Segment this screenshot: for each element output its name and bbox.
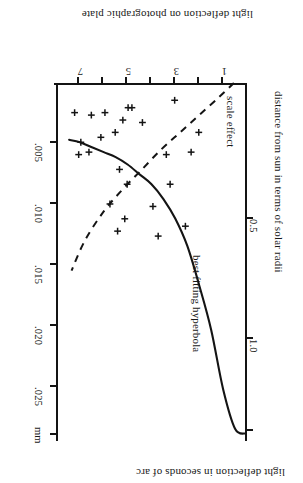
tick-arcsec-top bbox=[246, 429, 253, 431]
arcsec-axis-title: light deflection in seconds of arc bbox=[136, 467, 285, 479]
data-point bbox=[102, 109, 109, 116]
data-point bbox=[88, 112, 95, 119]
data-point bbox=[188, 149, 195, 156]
tick-label-mm-unit: mm bbox=[33, 427, 44, 444]
data-point bbox=[121, 215, 128, 222]
chart-canvas: light deflection on photographic plate l… bbox=[0, 0, 303, 483]
tick-label-arcsec-1-0: 1.0 bbox=[248, 339, 259, 353]
solar-radii-axis-title: distance from sun in terms of solar radi… bbox=[273, 91, 285, 273]
data-point bbox=[75, 151, 82, 158]
data-point bbox=[150, 203, 157, 210]
annotation-best-fitting-hyperbola: best fitting hyperbola bbox=[191, 255, 203, 352]
plot-frame: 1.0 0.5 .005 .010 .015 .020 .025 mm 1 bbox=[56, 83, 247, 441]
data-point bbox=[71, 109, 78, 116]
best-fitting-hyperbola-curve bbox=[69, 140, 246, 434]
data-point bbox=[112, 129, 119, 136]
figure-rotator: light deflection on photographic plate l… bbox=[0, 0, 303, 483]
tick-label-mm-020: .020 bbox=[33, 326, 44, 345]
data-point bbox=[86, 149, 93, 156]
tick-label-mm-025: .025 bbox=[33, 387, 44, 406]
data-point bbox=[195, 129, 202, 136]
data-point bbox=[167, 181, 174, 188]
tick-label-radii-7: 7 bbox=[78, 66, 83, 77]
data-point bbox=[97, 134, 104, 141]
data-points-group bbox=[71, 97, 202, 240]
tick-label-mm-015: .015 bbox=[33, 265, 44, 284]
data-point bbox=[116, 166, 123, 173]
tick-label-radii-1: 1 bbox=[222, 66, 227, 77]
data-point bbox=[119, 117, 126, 124]
data-point bbox=[182, 223, 189, 230]
tick-label-arcsec-0-5: 0.5 bbox=[248, 219, 259, 233]
tick-label-radii-5: 5 bbox=[126, 66, 131, 77]
scale-effect-curve bbox=[72, 83, 234, 271]
mm-axis-title: light deflection on photographic plate bbox=[82, 9, 253, 21]
plot-svg bbox=[56, 83, 247, 441]
tick-label-radii-3: 3 bbox=[174, 66, 179, 77]
tick-label-mm-010: .010 bbox=[33, 204, 44, 223]
data-point bbox=[171, 97, 178, 104]
data-point bbox=[163, 151, 170, 158]
data-point bbox=[155, 233, 162, 240]
data-point bbox=[114, 228, 121, 235]
tick-label-mm-005: .005 bbox=[33, 143, 44, 162]
data-point bbox=[139, 119, 146, 126]
annotation-scale-effect: scale effect bbox=[225, 96, 237, 147]
data-point bbox=[125, 104, 132, 111]
